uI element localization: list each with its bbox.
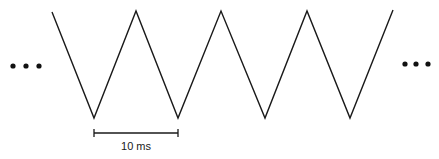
scale-bar-label: 10 ms (121, 140, 151, 152)
triangle-wave-diagram: 10 ms (0, 0, 439, 159)
continuation-dots-right (402, 61, 430, 66)
continuation-dots-left (10, 63, 41, 68)
scale-bar: 10 ms (94, 129, 178, 152)
triangle-waveform (52, 10, 393, 118)
